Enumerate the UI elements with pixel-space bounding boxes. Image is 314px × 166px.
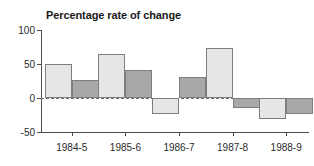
x-axis-tick xyxy=(72,132,73,136)
x-axis-label-1985-6: 1985-6 xyxy=(110,142,141,153)
bar-series-b-1984-5 xyxy=(72,80,99,98)
bar-series-a-1986-7 xyxy=(152,98,179,114)
x-axis-tick xyxy=(286,132,287,136)
y-axis-tick xyxy=(37,98,41,99)
y-axis-tick-label: 100 xyxy=(18,25,35,36)
x-axis-line xyxy=(41,132,309,133)
y-axis-tick xyxy=(37,64,41,65)
bar-series-a-1985-6 xyxy=(98,54,125,98)
bar-chart: Percentage rate of change -50050100 1984… xyxy=(0,0,314,166)
y-axis-tick-label: -50 xyxy=(21,127,35,138)
bar-series-a-1987-8 xyxy=(206,48,233,98)
plot-area: -50050100 1984-51985-61986-71987-81988-9 xyxy=(41,30,309,132)
x-axis-label-1988-9: 1988-9 xyxy=(271,142,302,153)
bar-series-b-1988-9 xyxy=(286,98,313,114)
chart-title: Percentage rate of change xyxy=(46,9,181,21)
bar-series-b-1985-6 xyxy=(125,70,152,98)
y-axis-tick-label: 50 xyxy=(24,59,35,70)
y-axis-tick-label: 0 xyxy=(29,93,35,104)
x-axis-tick xyxy=(179,132,180,136)
x-axis-label-1984-5: 1984-5 xyxy=(56,142,87,153)
bar-series-a-1984-5 xyxy=(45,64,72,98)
bar-series-a-1988-9 xyxy=(259,98,286,119)
bar-series-b-1986-7 xyxy=(179,77,206,98)
y-axis-tick xyxy=(37,132,41,133)
y-axis-line xyxy=(41,30,42,132)
x-axis-label-1987-8: 1987-8 xyxy=(217,142,248,153)
y-axis-tick xyxy=(37,30,41,31)
bar-series-b-1987-8 xyxy=(233,98,260,108)
x-axis-tick xyxy=(233,132,234,136)
x-axis-label-1986-7: 1986-7 xyxy=(163,142,194,153)
x-axis-tick xyxy=(125,132,126,136)
